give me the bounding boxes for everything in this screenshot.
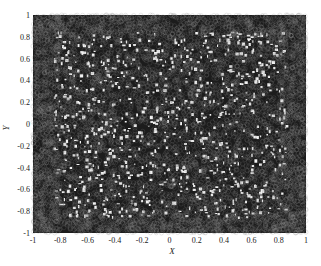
y-tick-label: 0.2	[20, 98, 30, 107]
x-tick-label: 1	[304, 236, 308, 245]
y-tick-label: 0	[26, 120, 30, 129]
y-tick-label: 1	[26, 11, 30, 20]
x-tick-label: -0.4	[109, 236, 122, 245]
y-tick-label: 0.6	[20, 55, 30, 64]
y-axis-ticks: 10.80.60.40.20-0.2-0.4-0.6-0.8-1	[17, 11, 30, 238]
y-tick-label: -0.6	[17, 185, 30, 194]
y-tick-label: -0.2	[17, 142, 30, 151]
y-tick-label: 0.8	[20, 33, 30, 42]
x-tick-label: -0.8	[54, 236, 67, 245]
x-tick-label: -1	[30, 236, 37, 245]
x-tick-label: 0.8	[274, 236, 284, 245]
scatter-chart: 10.80.60.40.20-0.2-0.4-0.6-0.8-1 -1-0.8-…	[0, 0, 321, 266]
y-tick-label: 0.4	[20, 76, 30, 85]
x-tick-label: 0.6	[246, 236, 256, 245]
x-axis-label: X	[168, 246, 175, 256]
x-tick-label: 0	[168, 236, 172, 245]
x-tick-label: 0.2	[192, 236, 202, 245]
y-tick-label: -0.8	[17, 207, 30, 216]
x-tick-label: -0.6	[81, 236, 94, 245]
x-axis-ticks: -1-0.8-0.6-0.4-0.200.20.40.60.81	[30, 236, 308, 245]
plot-area	[31, 13, 308, 235]
x-tick-label: 0.4	[219, 236, 229, 245]
y-tick-label: -0.4	[17, 164, 30, 173]
x-tick-label: -0.2	[136, 236, 149, 245]
y-axis-label: Y	[1, 125, 11, 131]
